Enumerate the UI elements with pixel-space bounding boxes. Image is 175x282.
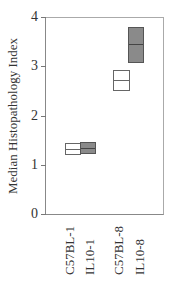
y-tick-4 (41, 17, 46, 18)
y-tick-3 (41, 66, 46, 67)
median-line (66, 149, 80, 150)
y-axis-label: Median Histopathology Index (5, 16, 21, 216)
y-tick-0 (41, 214, 46, 215)
x-label-il10-1: IL10-1 (83, 239, 97, 275)
y-tick-label-2: 2 (28, 109, 38, 123)
x-label-c57bl-8: C57BL-8 (112, 226, 126, 275)
box-c57bl-1 (65, 143, 81, 155)
y-tick-label-0: 0 (28, 207, 38, 221)
y-tick-label-4: 4 (28, 10, 38, 24)
y-tick-1 (41, 165, 46, 166)
x-label-il10-8: IL10-8 (133, 239, 147, 275)
y-tick-2 (41, 116, 46, 117)
median-line (81, 148, 95, 149)
box-il10-1 (80, 142, 96, 154)
box-il10-8 (128, 27, 144, 63)
y-tick-label-1: 1 (28, 158, 38, 172)
box-c57bl-8 (113, 70, 130, 91)
median-line (129, 44, 143, 45)
y-tick-label-3: 3 (28, 59, 38, 73)
x-label-c57bl-1: C57BL-1 (63, 226, 77, 275)
plot-area (45, 17, 164, 215)
median-line (114, 80, 129, 81)
